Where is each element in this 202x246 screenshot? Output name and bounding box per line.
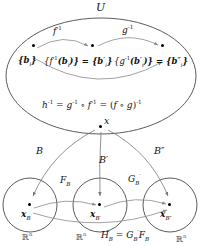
Bpp-symbol: B bbox=[154, 145, 161, 156]
gset-open: {g bbox=[114, 56, 125, 66]
basis-set-b-label: {bi} bbox=[18, 56, 37, 67]
fset-tail: )} = {b bbox=[69, 56, 103, 66]
HB-eq: = bbox=[113, 230, 126, 240]
F-B-label: FB bbox=[60, 176, 70, 187]
B-prime-map-label: B′ bbox=[99, 155, 108, 165]
fset-mid: (b bbox=[58, 56, 68, 66]
FB-sub: B bbox=[66, 181, 70, 187]
G-B-prime-label: GB′ bbox=[128, 174, 141, 186]
comp-eq1: = bbox=[53, 100, 66, 110]
x-B-prime-label: xB′ bbox=[90, 210, 101, 221]
composition-formula: h-1 = g-1 ∘ f-1 = (f ∘ g)-1 bbox=[42, 100, 142, 110]
gset-close: } bbox=[182, 56, 187, 66]
basis-b-open: {b bbox=[18, 55, 29, 65]
rn-right-exp: n bbox=[183, 233, 186, 239]
g-inverse-label: g-1 bbox=[122, 25, 133, 35]
F-B-arrow bbox=[34, 201, 96, 208]
x-B-label: xB bbox=[21, 210, 30, 221]
HB-symbol: H bbox=[101, 230, 109, 240]
xBp-sub-prime: ′ bbox=[99, 215, 100, 221]
B-double-prime-map-label: B″ bbox=[154, 146, 165, 156]
comp-close-exp: -1 bbox=[136, 99, 141, 105]
GBp-sub: B bbox=[135, 180, 139, 186]
rn-left-label: ℝn bbox=[22, 232, 32, 241]
HB-F-sub: B bbox=[145, 236, 149, 242]
rn-left-exp: n bbox=[29, 231, 32, 237]
basis-set-b-dprime-label: {g-1(b′i)} = {b″i} bbox=[114, 56, 188, 68]
xB-sub: B bbox=[26, 215, 30, 221]
math-diagram-figure: U f-1 g-1 {bi} {f-1(bi)} = {b′i} {g-1(b′… bbox=[0, 0, 202, 246]
G-B-prime-arrow bbox=[104, 200, 166, 207]
f-inverse-exponent: -1 bbox=[56, 25, 61, 31]
f-inverse-arrow bbox=[37, 39, 88, 48]
Bpp-mark: ″ bbox=[161, 145, 165, 156]
rn-right-label: ℝn bbox=[176, 234, 186, 243]
f-inverse-label: f-1 bbox=[53, 26, 62, 36]
gset-tail: )} = {b bbox=[144, 56, 178, 66]
B-map-label: B bbox=[36, 146, 43, 156]
point-x-label: x bbox=[104, 116, 109, 126]
gset-mid: (b bbox=[130, 56, 140, 66]
universe-ellipse bbox=[6, 18, 196, 134]
HB-G-sub: B bbox=[133, 236, 137, 242]
xBpp-sub-prime: ″ bbox=[169, 215, 171, 221]
x-B-double-prime-label: xB″ bbox=[160, 210, 172, 221]
comp-fg: f ∘ g bbox=[113, 100, 132, 110]
fset-close: } bbox=[107, 56, 112, 66]
basis-b-close: } bbox=[31, 55, 36, 65]
comp-eq2: = ( bbox=[97, 100, 114, 110]
rn-middle-label: ℝn bbox=[76, 232, 86, 241]
g-inverse-exponent: -1 bbox=[128, 24, 133, 30]
Bp-mark: ′ bbox=[106, 154, 108, 165]
fset-open: {f bbox=[44, 56, 53, 66]
universe-label: U bbox=[96, 2, 105, 13]
comp-circ: ∘ bbox=[78, 100, 88, 110]
H-B-relation-label: HB = GB′FB bbox=[101, 230, 149, 242]
rn-middle-exp: n bbox=[83, 231, 86, 237]
GBp-sub-prime: ′ bbox=[139, 173, 140, 179]
Bp-symbol: B bbox=[99, 154, 106, 165]
basis-set-b-prime-label: {f-1(bi)} = {b′i} bbox=[44, 56, 112, 68]
g-inverse-arrow bbox=[98, 38, 158, 46]
